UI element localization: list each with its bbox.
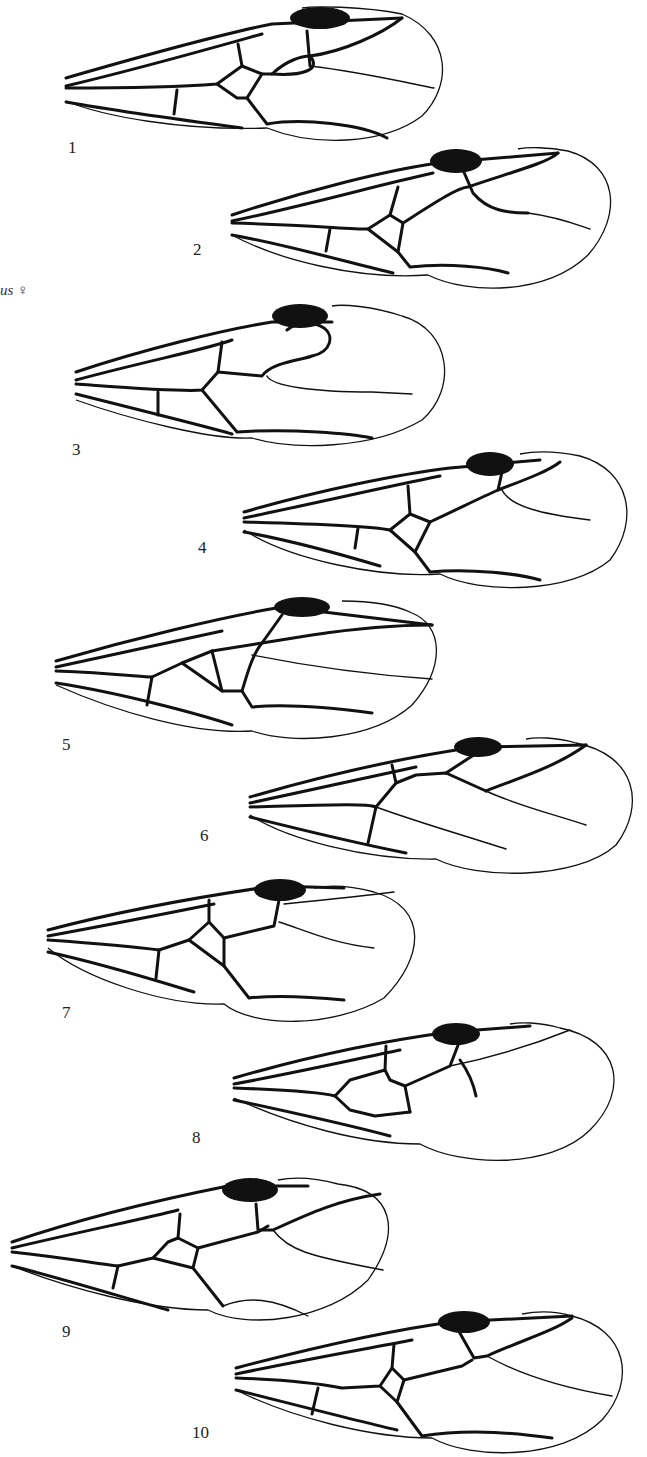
wing-venation-icon xyxy=(232,1310,632,1457)
wing-drawing-6 xyxy=(246,735,634,883)
wing-venation-icon xyxy=(228,145,613,295)
wing-drawing-9 xyxy=(8,1170,393,1325)
wing-drawing-5 xyxy=(52,595,442,745)
wing-drawing-4 xyxy=(240,450,630,598)
panel-label-9: 9 xyxy=(62,1322,71,1342)
panel-label-6: 6 xyxy=(200,826,209,846)
panel-label-1: 1 xyxy=(68,138,77,158)
panel-label-7: 7 xyxy=(62,1003,71,1023)
wing-venation-icon xyxy=(52,595,442,745)
wing-venation-icon xyxy=(62,6,447,146)
wing-venation-icon xyxy=(240,450,630,598)
wing-venation-icon xyxy=(44,878,426,1028)
wing-venation-icon xyxy=(230,1020,620,1170)
panel-label-8: 8 xyxy=(192,1128,201,1148)
wing-drawing-1 xyxy=(62,6,447,146)
wing-venation-icon xyxy=(246,735,634,883)
wing-venation-icon xyxy=(8,1170,393,1325)
wing-drawing-8 xyxy=(230,1020,620,1170)
wing-drawing-2 xyxy=(228,145,613,295)
panel-label-10: 10 xyxy=(192,1423,209,1443)
panel-label-5: 5 xyxy=(62,735,71,755)
panel-label-3: 3 xyxy=(72,440,81,460)
panel-label-4: 4 xyxy=(198,538,207,558)
wing-drawing-7 xyxy=(44,878,426,1028)
wing-drawing-3 xyxy=(72,300,452,450)
wing-drawing-10 xyxy=(232,1310,632,1457)
caption-fragment: us ♀ xyxy=(0,282,28,299)
wing-venation-icon xyxy=(72,300,452,450)
panel-label-2: 2 xyxy=(193,240,202,260)
